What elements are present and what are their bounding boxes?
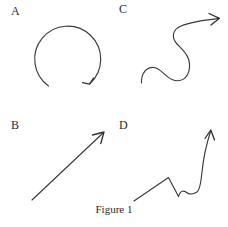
panel-c-shape-serpentine-wavy-arrow — [141, 14, 219, 84]
zigzag-line-path — [134, 132, 211, 202]
panel-a-shape-circular-loop-arrow — [35, 26, 101, 86]
panel-label-b: B — [11, 119, 19, 131]
panel-b-shape-straight-diagonal-arrow — [32, 132, 104, 200]
wavy-curve-path — [141, 19, 218, 83]
arrowhead-a-icon — [83, 78, 94, 84]
figure-drawing-canvas — [0, 0, 228, 227]
straight-line-path — [32, 134, 103, 201]
panel-label-c: C — [119, 3, 127, 15]
circle-arc-path — [35, 26, 101, 86]
panel-label-a: A — [11, 5, 20, 17]
figure-container: A B C D Figure 1 — [0, 0, 228, 227]
panel-label-d: D — [119, 119, 128, 131]
panel-d-shape-jagged-zigzag-arrow — [134, 130, 215, 201]
figure-caption: Figure 1 — [0, 203, 228, 215]
